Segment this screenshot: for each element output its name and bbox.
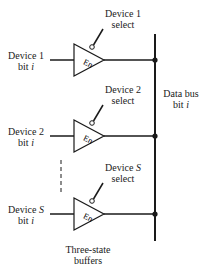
buffer-s-input-label-line1: Device S — [5, 204, 47, 215]
bit-prefix: bit — [18, 61, 31, 72]
select-line2: select — [100, 19, 146, 30]
buffer-s-input-label-line2: bit i — [5, 215, 47, 226]
select-line2: select — [100, 95, 146, 106]
buffer-1-select-label: Device 1 select — [100, 8, 146, 30]
buffer-2-select-label: Device 2 select — [100, 84, 146, 106]
junction-dot-2 — [152, 133, 157, 138]
bit-prefix: bit — [18, 137, 31, 148]
bit-var: i — [186, 99, 189, 110]
caption-line1: Three-state — [58, 244, 118, 255]
select-line1: Device 1 — [100, 8, 146, 19]
bus-label-line1: Data bus — [160, 88, 202, 99]
bit-var: i — [31, 215, 34, 226]
select-line1: Device S — [100, 162, 146, 173]
buffer-s-select-line — [94, 183, 104, 199]
buffer-2-input-label: Device 2 bit i — [5, 126, 47, 148]
buffer-1-input-label-line1: Device 1 — [5, 50, 47, 61]
device-prefix: Device — [8, 204, 39, 215]
bit-prefix: bit — [18, 215, 31, 226]
data-bus-label: Data bus bit i — [160, 88, 202, 110]
buffer-2 — [50, 105, 158, 152]
buffer-s-select-label: Device S select — [100, 162, 146, 184]
junction-dot-1 — [152, 57, 157, 62]
buffer-2-inversion-bubble-icon — [90, 121, 95, 126]
buffer-s-input-label: Device S bit i — [5, 204, 47, 226]
bit-var: i — [31, 61, 34, 72]
bit-var: i — [31, 137, 34, 148]
select-line1: Device 2 — [100, 84, 146, 95]
buffer-1-input-label: Device 1 bit i — [5, 50, 47, 72]
buffer-2-input-label-line1: Device 2 — [5, 126, 47, 137]
buffer-2-input-label-line2: bit i — [5, 137, 47, 148]
caption: Three-state buffers — [58, 244, 118, 266]
buffer-1 — [50, 29, 158, 76]
device-var: S — [39, 204, 44, 215]
buffer-2-select-line — [94, 105, 104, 121]
buffer-s — [50, 183, 158, 230]
buffer-1-inversion-bubble-icon — [90, 45, 95, 50]
select-line2: select — [100, 173, 146, 184]
buffer-1-input-label-line2: bit i — [5, 61, 47, 72]
junction-dot-s — [152, 211, 157, 216]
caption-line2: buffers — [58, 255, 118, 266]
device-var: S — [136, 162, 141, 173]
buffer-s-inversion-bubble-icon — [90, 199, 95, 204]
buffer-1-select-line — [94, 29, 104, 45]
device-prefix: Device — [105, 162, 136, 173]
bus-label-line2: bit i — [160, 99, 202, 110]
bit-prefix: bit — [173, 99, 186, 110]
